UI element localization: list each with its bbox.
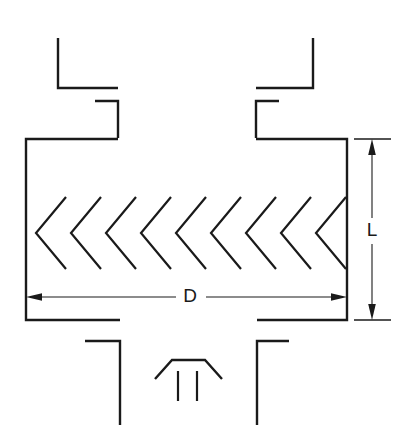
exchanger-cross-section-diagram: D L	[0, 0, 408, 445]
dimension-D-label: D	[183, 285, 197, 306]
technical-drawing-canvas: D L	[0, 0, 408, 445]
dimension-L-label: L	[367, 219, 378, 240]
